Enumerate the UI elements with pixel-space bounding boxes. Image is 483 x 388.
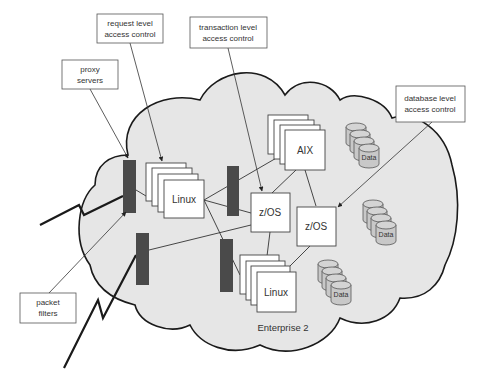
- svg-text:access control: access control: [404, 105, 455, 114]
- firewall-bar: [220, 239, 233, 292]
- svg-text:access control: access control: [202, 34, 253, 43]
- svg-text:packet: packet: [36, 298, 60, 307]
- security-architecture-diagram: Linux AIX z/OS z/OS Linux Data Data: [0, 0, 483, 388]
- firewall-bar: [227, 166, 239, 216]
- linux-1-label: Linux: [172, 194, 196, 205]
- zos-1-label: z/OS: [259, 207, 282, 218]
- callout-proxy-servers: proxy servers: [62, 60, 118, 89]
- svg-text:request level: request level: [107, 19, 153, 28]
- data-2-label: Data: [379, 231, 394, 238]
- data-1-label: Data: [362, 154, 377, 161]
- linux-2-label: Linux: [264, 287, 288, 298]
- zos-2-label: z/OS: [305, 221, 328, 232]
- svg-text:database level: database level: [404, 94, 456, 103]
- proxy-server-bar: [123, 160, 136, 213]
- callout-database-level: database level access control: [396, 86, 465, 122]
- svg-text:access control: access control: [104, 30, 155, 39]
- enterprise-label: Enterprise 2: [257, 322, 308, 333]
- callout-transaction-level: transaction level access control: [190, 17, 267, 48]
- svg-text:filters: filters: [38, 309, 57, 318]
- data-3-label: Data: [334, 291, 349, 298]
- svg-text:servers: servers: [77, 76, 103, 85]
- packet-filter-bar: [136, 233, 149, 285]
- callout-request-level: request level access control: [97, 14, 163, 43]
- svg-text:proxy: proxy: [80, 65, 100, 74]
- svg-text:transaction level: transaction level: [199, 23, 257, 32]
- aix-label: AIX: [297, 145, 313, 156]
- callout-packet-filters: packet filters: [20, 293, 76, 323]
